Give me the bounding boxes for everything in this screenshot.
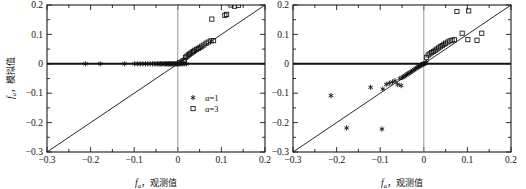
y-tick-label: 0 bbox=[284, 59, 289, 69]
x-axis-title: fa，观测值 bbox=[135, 177, 177, 189]
open-square-marker bbox=[480, 31, 484, 35]
legend-marker-alpha-3 bbox=[191, 107, 195, 111]
open-square-marker bbox=[466, 38, 470, 42]
y-tick-label: −0.3 bbox=[272, 147, 289, 157]
legend: α=1α=3 bbox=[191, 93, 219, 114]
x-tick-label: −0.1 bbox=[126, 155, 143, 165]
x-axis-title: fa，观测值 bbox=[381, 177, 423, 189]
x-tick-label: 0 bbox=[175, 155, 180, 165]
y-tick-label: 0.2 bbox=[31, 0, 43, 10]
x-tick-label: −0.2 bbox=[82, 155, 99, 165]
scatter-figure: −0.3−0.2−0.100.10.2−0.3−0.2−0.100.10.2fa… bbox=[0, 0, 526, 189]
series-alpha-3 bbox=[424, 9, 484, 60]
one-to-one-line bbox=[47, 5, 265, 152]
y-axis-cjk: ，模拟值 bbox=[5, 57, 16, 93]
y-tick-label: 0.1 bbox=[277, 30, 289, 40]
x-tick-label: −0.2 bbox=[328, 155, 345, 165]
panel-right: −0.3−0.2−0.100.10.2−0.3−0.2−0.100.10.2fa… bbox=[272, 0, 517, 189]
y-tick-label: 0.1 bbox=[31, 30, 43, 40]
asterisk-marker bbox=[329, 93, 334, 98]
figure-container: −0.3−0.2−0.100.10.2−0.3−0.2−0.100.10.2fa… bbox=[0, 0, 526, 189]
y-tick-label: 0.2 bbox=[277, 0, 289, 10]
y-tick-label: −0.3 bbox=[26, 147, 43, 157]
series-alpha-3 bbox=[177, 3, 240, 65]
x-tick-label: 0.2 bbox=[505, 155, 517, 165]
asterisk-marker bbox=[380, 126, 385, 131]
x-axis-cjk: ，观测值 bbox=[387, 177, 423, 188]
data-points bbox=[329, 9, 484, 132]
open-square-marker bbox=[475, 38, 479, 42]
x-tick-label: 0 bbox=[421, 155, 426, 165]
x-tick-label: −0.1 bbox=[372, 155, 389, 165]
y-tick-label: −0.1 bbox=[26, 88, 43, 98]
panel-left: −0.3−0.2−0.100.10.2−0.3−0.2−0.100.10.2fa… bbox=[26, 0, 271, 189]
y-tick-label: −0.1 bbox=[272, 88, 289, 98]
asterisk-marker bbox=[191, 95, 196, 100]
y-tick-label: 0 bbox=[38, 59, 43, 69]
legend-label-alpha-1: α=1 bbox=[205, 93, 219, 103]
y-tick-label: −0.2 bbox=[272, 118, 289, 128]
x-axis-cjk: ，观测值 bbox=[141, 177, 177, 188]
asterisk-marker bbox=[344, 125, 349, 130]
legend-label-alpha-3: α=3 bbox=[205, 104, 219, 114]
x-tick-label: 0.2 bbox=[259, 155, 271, 165]
data-points bbox=[83, 3, 240, 67]
x-tick-label: 0.1 bbox=[461, 155, 473, 165]
asterisk-marker bbox=[368, 85, 373, 90]
series-alpha-1 bbox=[329, 60, 429, 132]
x-tick-label: 0.1 bbox=[215, 155, 227, 165]
open-square-marker bbox=[460, 31, 464, 35]
open-square-marker bbox=[210, 17, 214, 21]
open-square-marker bbox=[455, 9, 459, 13]
y-axis-title: fa，模拟值 bbox=[5, 57, 17, 99]
y-tick-label: −0.2 bbox=[26, 118, 43, 128]
